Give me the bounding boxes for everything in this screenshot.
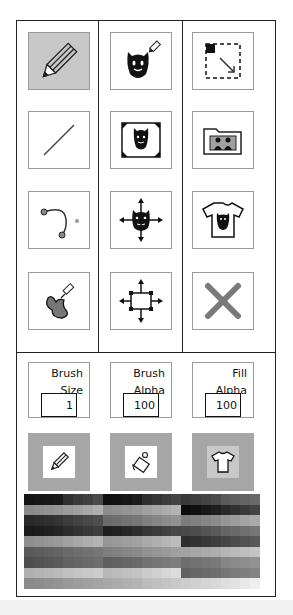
tool-fill[interactable] <box>28 272 90 330</box>
palette-swatch[interactable] <box>34 526 44 537</box>
palette-swatch[interactable] <box>122 568 132 579</box>
brush-alpha-input[interactable] <box>123 393 159 417</box>
palette-swatch[interactable] <box>83 494 93 505</box>
palette-swatch[interactable] <box>122 578 132 589</box>
palette-swatch[interactable] <box>132 557 142 568</box>
palette-swatch[interactable] <box>44 505 54 516</box>
palette-swatch[interactable] <box>112 578 122 589</box>
palette-swatch[interactable] <box>211 515 221 526</box>
palette-swatch[interactable] <box>250 557 260 568</box>
palette-swatch[interactable] <box>122 557 132 568</box>
palette-swatch[interactable] <box>171 494 181 505</box>
palette-swatch[interactable] <box>132 526 142 537</box>
palette-swatch[interactable] <box>73 526 83 537</box>
brush-color-button[interactable] <box>28 433 90 491</box>
palette-swatch[interactable] <box>44 526 54 537</box>
palette-swatch[interactable] <box>103 515 113 526</box>
palette-swatch[interactable] <box>24 547 34 558</box>
palette-swatch[interactable] <box>162 494 172 505</box>
palette-swatch[interactable] <box>112 515 122 526</box>
palette-swatch[interactable] <box>250 526 260 537</box>
palette-swatch[interactable] <box>34 568 44 579</box>
palette-swatch[interactable] <box>221 578 231 589</box>
palette-swatch[interactable] <box>142 536 152 547</box>
palette-swatch[interactable] <box>191 536 201 547</box>
palette-swatch[interactable] <box>162 536 172 547</box>
palette-swatch[interactable] <box>181 536 191 547</box>
palette-swatch[interactable] <box>162 526 172 537</box>
fill-alpha-input[interactable] <box>205 393 241 417</box>
palette-swatch[interactable] <box>181 547 191 558</box>
palette-swatch[interactable] <box>191 568 201 579</box>
palette-swatch[interactable] <box>73 505 83 516</box>
palette-swatch[interactable] <box>103 494 113 505</box>
palette-swatch[interactable] <box>181 515 191 526</box>
palette-swatch[interactable] <box>152 505 162 516</box>
palette-swatch[interactable] <box>191 505 201 516</box>
palette-swatch[interactable] <box>24 505 34 516</box>
tool-line[interactable] <box>28 111 90 169</box>
palette-swatch[interactable] <box>171 526 181 537</box>
palette-swatch[interactable] <box>201 568 211 579</box>
palette-swatch[interactable] <box>24 536 34 547</box>
palette-swatch[interactable] <box>240 515 250 526</box>
palette-swatch[interactable] <box>122 526 132 537</box>
palette-swatch[interactable] <box>152 494 162 505</box>
palette-swatch[interactable] <box>122 547 132 558</box>
palette-swatch[interactable] <box>73 494 83 505</box>
palette-swatch[interactable] <box>221 557 231 568</box>
palette-swatch[interactable] <box>201 557 211 568</box>
palette-swatch[interactable] <box>152 557 162 568</box>
palette-swatch[interactable] <box>44 578 54 589</box>
palette-swatch[interactable] <box>181 494 191 505</box>
palette-swatch[interactable] <box>201 515 211 526</box>
palette-swatch[interactable] <box>53 515 63 526</box>
palette-swatch[interactable] <box>230 557 240 568</box>
palette-swatch[interactable] <box>211 505 221 516</box>
palette-swatch[interactable] <box>162 578 172 589</box>
palette-swatch[interactable] <box>112 494 122 505</box>
palette-swatch[interactable] <box>63 526 73 537</box>
palette-swatch[interactable] <box>73 515 83 526</box>
palette-swatch[interactable] <box>93 505 103 516</box>
palette-swatch[interactable] <box>240 526 250 537</box>
palette-swatch[interactable] <box>132 505 142 516</box>
palette-swatch[interactable] <box>191 526 201 537</box>
palette-swatch[interactable] <box>53 536 63 547</box>
palette-swatch[interactable] <box>112 505 122 516</box>
palette-swatch[interactable] <box>201 547 211 558</box>
palette-swatch[interactable] <box>221 494 231 505</box>
palette-swatch[interactable] <box>250 578 260 589</box>
palette-swatch[interactable] <box>63 547 73 558</box>
palette-swatch[interactable] <box>53 505 63 516</box>
palette-swatch[interactable] <box>240 536 250 547</box>
palette-swatch[interactable] <box>93 515 103 526</box>
palette-swatch[interactable] <box>53 557 63 568</box>
palette-swatch[interactable] <box>103 536 113 547</box>
palette-swatch[interactable] <box>211 547 221 558</box>
tool-pencil[interactable] <box>28 32 90 90</box>
palette-swatch[interactable] <box>142 557 152 568</box>
palette-swatch[interactable] <box>132 578 142 589</box>
palette-swatch[interactable] <box>201 494 211 505</box>
palette-swatch[interactable] <box>211 494 221 505</box>
palette-swatch[interactable] <box>34 515 44 526</box>
palette-swatch[interactable] <box>63 557 73 568</box>
palette-swatch[interactable] <box>83 526 93 537</box>
palette-swatch[interactable] <box>93 578 103 589</box>
palette-swatch[interactable] <box>240 505 250 516</box>
palette-swatch[interactable] <box>230 494 240 505</box>
palette-swatch[interactable] <box>83 505 93 516</box>
palette-swatch[interactable] <box>34 547 44 558</box>
palette-swatch[interactable] <box>63 568 73 579</box>
palette-swatch[interactable] <box>142 505 152 516</box>
palette-swatch[interactable] <box>171 547 181 558</box>
palette-swatch[interactable] <box>24 526 34 537</box>
palette-swatch[interactable] <box>230 526 240 537</box>
palette-swatch[interactable] <box>250 494 260 505</box>
palette-swatch[interactable] <box>53 578 63 589</box>
palette-swatch[interactable] <box>93 568 103 579</box>
palette-swatch[interactable] <box>240 557 250 568</box>
palette-swatch[interactable] <box>103 547 113 558</box>
palette-swatch[interactable] <box>83 557 93 568</box>
